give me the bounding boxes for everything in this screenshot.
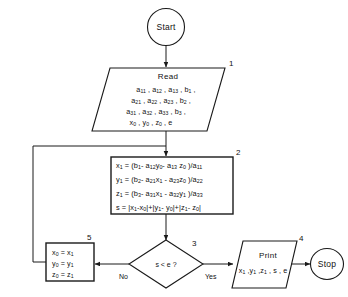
read-line-4: x0 , y0 , z0 , e	[130, 119, 173, 127]
compute-line-1: x1 = (b1‑ a12y0‑ a13 z0 )/a11	[116, 162, 202, 171]
read-line-1: a11 , a12 , a13 , b1 ,	[136, 86, 195, 94]
read-step-number: 1	[229, 60, 233, 68]
print-header: Print	[259, 252, 277, 260]
read-header: Read	[158, 73, 178, 81]
decision-condition: s < e ?	[155, 261, 176, 268]
decision-step-number: 3	[192, 240, 196, 248]
compute-line-3: z1 = (b3‑ a31x1 ‑ a32y1 )/a33	[116, 190, 203, 199]
compute-line-2: y1 = (b2‑ a21x1 ‑ a23z0 )/a22	[116, 176, 203, 185]
read-line-2: a21 , a22 , a23 , b2 ,	[131, 97, 191, 105]
print-io-shape	[232, 241, 297, 288]
compute-line-4: s = |x1‑x0|+|y1‑ y0|+|z1‑ z0|	[116, 204, 201, 213]
update-line-1: x0 = x1	[52, 249, 74, 257]
print-step-number: 4	[299, 235, 303, 243]
stop-label: Stop	[318, 260, 336, 269]
decision-no-label: No	[119, 273, 128, 280]
compute-step-number: 2	[236, 149, 240, 157]
decision-yes-label: Yes	[205, 273, 216, 280]
start-label: Start	[157, 23, 176, 32]
update-step-number: 5	[87, 234, 91, 242]
print-line-1: x1 ,y1 ,z1 , s , e	[239, 267, 288, 275]
update-line-3: z0 = z1	[52, 271, 74, 279]
read-line-3: a31 , a32 , a33 , b3 ,	[126, 108, 186, 116]
update-line-2: y0 = y1	[52, 260, 74, 268]
